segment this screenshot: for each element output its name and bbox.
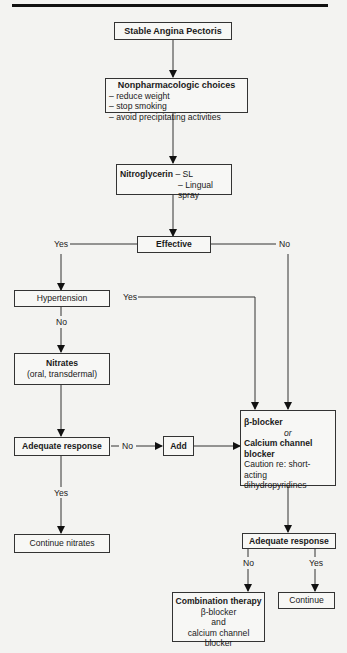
route-spray: – Lingual spray — [120, 180, 228, 201]
node-hypertension: Hypertension — [14, 290, 110, 307]
list-item: – avoid precipitating activities — [109, 112, 244, 123]
node-title: Combination therapy — [173, 596, 264, 607]
combo-line-1: β-blocker — [173, 607, 264, 618]
node-continue: Continue — [278, 592, 335, 609]
node-title: Continue — [289, 595, 323, 605]
route-sl: – SL — [173, 169, 193, 179]
ccb-label-cont: blocker — [244, 449, 332, 460]
node-subtitle: (oral, transdermal) — [15, 369, 109, 380]
node-beta-ccb: β-blocker or Calcium channel blocker Cau… — [240, 410, 336, 486]
combo-line-3: calcium channel blocker — [173, 628, 264, 649]
node-title: Nonpharmacologic choices — [109, 80, 244, 91]
edge-label-adequate-right-yes: Yes — [308, 558, 324, 568]
node-title: Adequate response — [22, 441, 102, 451]
node-title: Adequate response — [249, 536, 329, 546]
node-adequate-response-left: Adequate response — [14, 437, 110, 456]
list-item: – stop smoking — [109, 101, 244, 112]
node-title: Hypertension — [37, 293, 88, 303]
ccb-label: Calcium channel — [244, 438, 332, 449]
edge-label-effective-no: No — [278, 239, 291, 249]
node-continue-nitrates: Continue nitrates — [14, 534, 110, 553]
node-adequate-response-right: Adequate response — [242, 533, 336, 549]
node-nonpharmacologic: Nonpharmacologic choices – reduce weight… — [105, 78, 248, 113]
list-item: – reduce weight — [109, 91, 244, 102]
node-title: Stable Angina Pectoris — [124, 26, 222, 36]
node-stable-angina: Stable Angina Pectoris — [114, 22, 232, 40]
edge-label-adequate-left-no: No — [121, 441, 134, 451]
node-nitrates: Nitrates (oral, transdermal) — [14, 353, 110, 385]
node-title: Nitroglycerin — [120, 169, 173, 179]
or-label: or — [244, 428, 332, 439]
node-title: Nitrates — [15, 358, 109, 369]
beta-blocker-label: β-blocker — [244, 417, 332, 428]
edge-label-adequate-left-yes: Yes — [53, 488, 69, 498]
edge-label-effective-yes: Yes — [53, 239, 69, 249]
node-combination-therapy: Combination therapy β-blocker and calciu… — [172, 592, 265, 642]
node-title: Add — [170, 441, 187, 451]
node-effective: Effective — [137, 236, 211, 253]
caution-note-cont: dihydropyridines — [244, 480, 332, 491]
node-add: Add — [163, 436, 194, 456]
edge-label-hypertension-no: No — [55, 317, 68, 327]
node-nitroglycerin: Nitroglycerin – SL – Lingual spray — [116, 164, 232, 195]
node-title: Continue nitrates — [30, 538, 95, 548]
combo-line-2: and — [173, 617, 264, 628]
node-title: Effective — [156, 239, 192, 249]
caution-note: Caution re: short-acting — [244, 459, 332, 480]
edge-label-adequate-right-no: No — [242, 558, 255, 568]
edge-label-hypertension-yes: Yes — [122, 292, 138, 302]
